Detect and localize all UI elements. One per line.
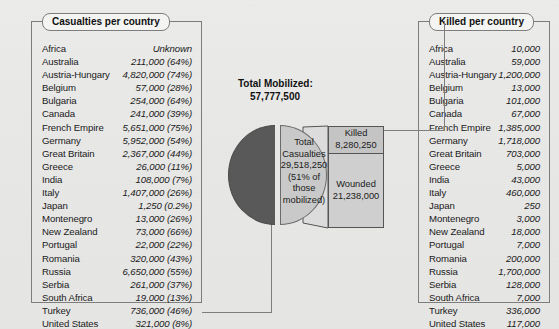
casualties-country-name: Great Britain bbox=[42, 147, 95, 160]
bar-segment-wounded: Wounded 21,238,000 bbox=[329, 154, 383, 227]
table-row: Romania320,000 (43%) bbox=[42, 252, 192, 265]
casualties-country-value: 57,000 (28%) bbox=[136, 81, 192, 94]
casualties-country-name: South Africa bbox=[42, 291, 93, 304]
table-row: South Africa19,000 (13%) bbox=[42, 291, 192, 304]
casualties-country-value: 736,000 (46%) bbox=[130, 304, 192, 317]
killed-country-value: 13,000 bbox=[511, 81, 540, 94]
killed-country-name: Australia bbox=[429, 55, 465, 68]
killed-country-value: 7,000 bbox=[516, 238, 540, 251]
killed-country-name: Austria-Hungary bbox=[429, 68, 497, 81]
casualties-country-value: 19,000 (13%) bbox=[136, 291, 192, 304]
table-row: Africa10,000 bbox=[429, 42, 540, 55]
killed-country-name: Canada bbox=[429, 107, 462, 120]
casualties-country-value: 13,000 (26%) bbox=[136, 212, 192, 225]
killed-country-value: 1,718,000 bbox=[498, 134, 540, 147]
table-row: Greece26,000 (11%) bbox=[42, 160, 192, 173]
killed-country-name: Africa bbox=[429, 42, 453, 55]
table-row: Montenegro3,000 bbox=[429, 212, 540, 225]
killed-country-value: 101,000 bbox=[506, 94, 540, 107]
casualties-country-value: 241,000 (39%) bbox=[130, 107, 192, 120]
killed-country-value: 250 bbox=[524, 199, 540, 212]
killed-country-value: 703,000 bbox=[506, 147, 540, 160]
casualties-country-name: Bulgaria bbox=[42, 94, 76, 107]
casualties-country-name: Portugal bbox=[42, 238, 77, 251]
casualties-country-name: Africa bbox=[42, 42, 66, 55]
bar-wounded-label: Wounded bbox=[336, 179, 376, 191]
table-row: Serbia261,000 (37%) bbox=[42, 278, 192, 291]
casualties-country-name: Japan bbox=[42, 199, 68, 212]
casualties-country-value: 211,000 (64%) bbox=[131, 55, 192, 68]
table-row: Serbia128,000 bbox=[429, 278, 540, 291]
killed-country-value: 128,000 bbox=[506, 278, 540, 291]
killed-country-name: Portugal bbox=[429, 238, 464, 251]
table-row: Germany5,952,000 (54%) bbox=[42, 134, 192, 147]
casualties-country-name: Australia bbox=[42, 55, 78, 68]
casualties-country-name: India bbox=[42, 173, 62, 186]
killed-country-value: 3,000 bbox=[516, 212, 540, 225]
pie-slice-label-text: Total Casualties 29,518,250 (51% of thos… bbox=[281, 137, 328, 205]
casualties-country-name: Romania bbox=[42, 252, 80, 265]
table-row: French Empire5,651,000 (75%) bbox=[42, 121, 192, 134]
casualties-leader-line-horizontal bbox=[202, 312, 272, 313]
table-row: AfricaUnknown bbox=[42, 42, 192, 55]
killed-country-value: 1,700,000 bbox=[498, 265, 540, 278]
table-row: Belgium57,000 (28%) bbox=[42, 81, 192, 94]
table-row: Portugal22,000 (22%) bbox=[42, 238, 192, 251]
killed-country-name: Romania bbox=[429, 252, 467, 265]
table-row: New Zealand73,000 (66%) bbox=[42, 225, 192, 238]
table-row: Greece5,000 bbox=[429, 160, 540, 173]
killed-country-name: Serbia bbox=[429, 278, 456, 291]
table-row: Japan1,250 (0.2%) bbox=[42, 199, 192, 212]
bar-segment-killed: Killed 8,280,250 bbox=[329, 127, 383, 154]
stacked-bar: Killed 8,280,250 Wounded 21,238,000 bbox=[328, 126, 384, 228]
casualties-country-name: Canada bbox=[42, 107, 75, 120]
killed-country-value: 1,385,000 bbox=[498, 121, 540, 134]
casualties-country-value: 5,952,000 (54%) bbox=[123, 134, 192, 147]
killed-country-value: 1,200,000 bbox=[498, 68, 540, 81]
killed-country-name: Russia bbox=[429, 265, 458, 278]
table-row: Portugal7,000 bbox=[429, 238, 540, 251]
killed-country-value: 117,000 bbox=[507, 317, 540, 329]
casualties-country-name: Italy bbox=[42, 186, 59, 199]
table-row: Austria-Hungary1,200,000 bbox=[429, 68, 540, 81]
killed-country-value: 18,000 bbox=[511, 225, 540, 238]
casualties-country-value: 73,000 (66%) bbox=[136, 225, 192, 238]
casualties-table: AfricaUnknownAustralia211,000 (64%)Austr… bbox=[42, 42, 192, 329]
killed-table: Africa10,000Australia59,000Austria-Hunga… bbox=[429, 42, 540, 329]
killed-country-name: Japan bbox=[429, 199, 455, 212]
pie-slice-label: Total Casualties 29,518,250 (51% of thos… bbox=[277, 137, 331, 207]
casualties-country-value: 261,000 (37%) bbox=[130, 278, 192, 291]
killed-country-value: 59,000 bbox=[511, 55, 540, 68]
table-row: Russia1,700,000 bbox=[429, 265, 540, 278]
killed-country-name: India bbox=[429, 173, 449, 186]
table-row: Belgium13,000 bbox=[429, 81, 540, 94]
bar-killed-value: 8,280,250 bbox=[335, 140, 376, 152]
casualties-country-name: Germany bbox=[42, 134, 81, 147]
casualties-country-value: 6,650,000 (55%) bbox=[123, 265, 192, 278]
table-row: Canada67,000 bbox=[429, 107, 540, 120]
table-row: Bulgaria254,000 (64%) bbox=[42, 94, 192, 107]
killed-country-name: French Empire bbox=[429, 121, 491, 134]
killed-country-value: 460,000 bbox=[506, 186, 540, 199]
table-row: Italy1,407,000 (26%) bbox=[42, 186, 192, 199]
killed-country-value: 200,000 bbox=[506, 252, 540, 265]
casualties-country-value: 2,367,000 (44%) bbox=[123, 147, 192, 160]
casualties-country-name: Turkey bbox=[42, 304, 70, 317]
casualties-country-value: 1,250 (0.2%) bbox=[138, 199, 192, 212]
killed-country-name: Belgium bbox=[429, 81, 463, 94]
killed-country-value: 10,000 bbox=[511, 42, 540, 55]
table-row: Turkey336,000 bbox=[429, 304, 540, 317]
table-row: United States117,000 bbox=[429, 317, 540, 329]
casualties-panel-title: Casualties per country bbox=[42, 13, 170, 31]
casualties-per-country-panel: Casualties per country AfricaUnknownAust… bbox=[31, 21, 202, 303]
table-row: Germany1,718,000 bbox=[429, 134, 540, 147]
casualties-country-name: Serbia bbox=[42, 278, 69, 291]
casualties-country-value: 108,000 (7%) bbox=[136, 173, 192, 186]
table-row: Great Britain703,000 bbox=[429, 147, 540, 160]
killed-country-name: New Zealand bbox=[429, 225, 484, 238]
killed-country-value: 5,000 bbox=[516, 160, 540, 173]
killed-country-name: Germany bbox=[429, 134, 468, 147]
killed-country-name: Turkey bbox=[429, 304, 457, 317]
table-row: Bulgaria101,000 bbox=[429, 94, 540, 107]
casualties-country-value: 26,000 (11%) bbox=[136, 160, 192, 173]
